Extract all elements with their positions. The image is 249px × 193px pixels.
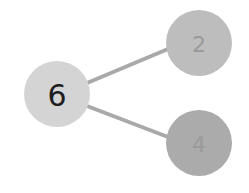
part-label-top: 2 xyxy=(192,32,206,57)
whole-label: 6 xyxy=(47,78,66,113)
connector-line-whole-to-part-2 xyxy=(87,49,168,83)
part-label-bottom: 4 xyxy=(192,132,206,157)
number-bond-diagram: 6 2 4 xyxy=(0,0,249,193)
connector-line-whole-to-part-4 xyxy=(87,106,168,137)
part-node-bottom: 4 xyxy=(166,110,232,176)
whole-node: 6 xyxy=(24,61,90,127)
part-node-top: 2 xyxy=(166,10,232,76)
